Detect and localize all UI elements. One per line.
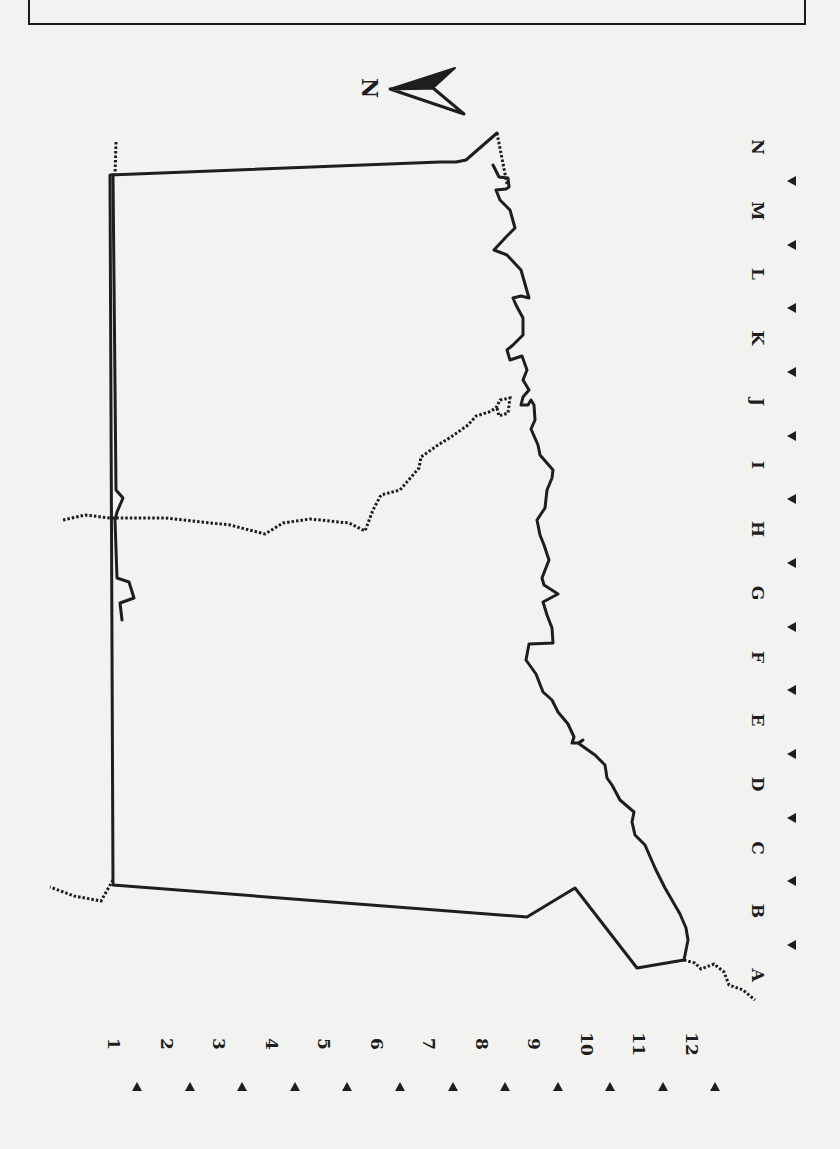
- grid-tick-marker: [500, 1082, 510, 1091]
- column-label-f: F: [748, 645, 768, 669]
- column-label-e: E: [748, 708, 768, 732]
- row-label-6: 6: [367, 1032, 387, 1056]
- row-label-10: 10: [577, 1032, 597, 1056]
- west-edge-segment: [113, 175, 134, 620]
- row-label-8: 8: [472, 1032, 492, 1056]
- grid-tick-marker: [787, 431, 796, 441]
- state-boundary-dotted: [50, 133, 755, 1000]
- state-boundary-solid: [110, 133, 688, 968]
- dotted-boundary-segment: [115, 142, 116, 175]
- row-label-7: 7: [419, 1032, 439, 1056]
- map-boundaries: [0, 0, 840, 1149]
- grid-tick-marker: [787, 813, 796, 823]
- grid-tick-marker: [658, 1082, 668, 1091]
- column-label-b: B: [748, 899, 768, 923]
- column-label-l: L: [748, 262, 768, 286]
- grid-tick-marker: [787, 940, 796, 950]
- column-label-a: A: [748, 963, 768, 987]
- map-canvas: N NMLKJIHGFEDCBA 123456789101112: [0, 0, 840, 1149]
- grid-tick-marker: [787, 685, 796, 695]
- column-label-k: K: [748, 326, 768, 350]
- grid-tick-marker: [787, 176, 796, 186]
- grid-tick-marker: [787, 749, 796, 759]
- outline-segment: [110, 133, 688, 968]
- column-label-g: G: [748, 581, 768, 605]
- grid-tick-marker: [787, 367, 796, 377]
- row-label-5: 5: [314, 1032, 334, 1056]
- grid-tick-marker: [787, 303, 796, 313]
- column-label-c: C: [748, 836, 768, 860]
- column-label-i: I: [748, 453, 768, 477]
- row-label-3: 3: [209, 1032, 229, 1056]
- row-label-11: 11: [629, 1032, 649, 1056]
- dotted-boundary-segment: [684, 960, 755, 1000]
- grid-tick-marker: [787, 558, 796, 568]
- north-arrow-icon: [390, 68, 464, 114]
- row-label-2: 2: [157, 1032, 177, 1056]
- grid-tick-marker: [710, 1082, 720, 1091]
- grid-tick-marker: [448, 1082, 458, 1091]
- column-label-n: N: [748, 135, 768, 159]
- grid-tick-marker: [787, 240, 796, 250]
- column-label-h: H: [748, 517, 768, 541]
- grid-tick-marker: [132, 1082, 142, 1091]
- grid-tick-marker: [787, 622, 796, 632]
- row-label-12: 12: [682, 1032, 702, 1056]
- grid-tick-marker: [395, 1082, 405, 1091]
- grid-tick-marker: [342, 1082, 352, 1091]
- column-label-m: M: [748, 199, 768, 223]
- row-label-9: 9: [524, 1032, 544, 1056]
- grid-tick-marker: [787, 876, 796, 886]
- dotted-boundary-segment: [50, 880, 113, 901]
- grid-tick-marker: [185, 1082, 195, 1091]
- column-label-d: D: [748, 772, 768, 796]
- grid-tick-marker: [787, 494, 796, 504]
- north-label: N: [360, 76, 380, 100]
- column-label-j: J: [748, 390, 768, 414]
- grid-tick-marker: [290, 1082, 300, 1091]
- row-label-4: 4: [262, 1032, 282, 1056]
- row-label-1: 1: [104, 1032, 124, 1056]
- grid-tick-marker: [237, 1082, 247, 1091]
- grid-tick-marker: [553, 1082, 563, 1091]
- dotted-boundary-segment: [63, 398, 510, 534]
- grid-tick-marker: [605, 1082, 615, 1091]
